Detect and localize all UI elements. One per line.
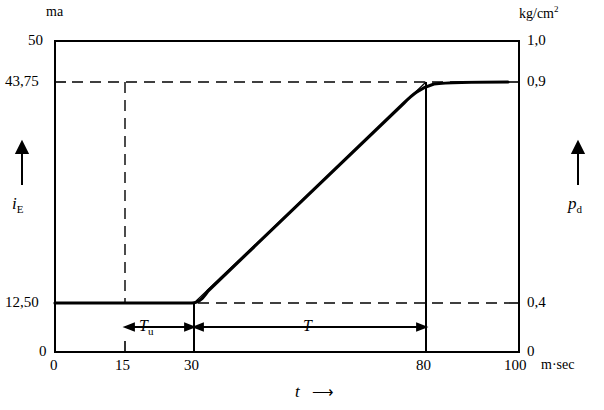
right-axis-arrow-icon [573,142,584,185]
x-axis-symbol: t [295,382,300,401]
y-tick-right-04: 0,4 [527,295,546,310]
axis-ticks-left [55,41,66,352]
y-axis-right-subscript: d [577,203,583,215]
annotation-tu-subscript: u [148,325,154,337]
y-axis-right-symbol: p [568,194,577,213]
left-axis-arrow-icon [17,142,28,185]
x-tick-30: 30 [184,358,199,373]
left-unit-label: ma [46,5,63,19]
y-tick-left-1250: 12,50 [5,295,39,310]
axis-ticks-right [508,41,519,352]
dashed-guides [72,82,508,303]
axis-ticks-bottom [55,341,519,352]
annotation-tu-arrow [125,324,194,331]
x-axis-name: t ⟶ [295,383,334,400]
annotation-tu-symbol: T [139,317,148,334]
y-tick-right-0: 0 [527,344,535,359]
y-tick-right-10: 1,0 [527,33,546,48]
y-tick-left-0: 0 [39,344,47,359]
right-unit-exponent: 2 [554,4,559,14]
y-tick-left-50: 50 [28,33,43,48]
x-tick-80: 80 [416,358,431,373]
y-axis-right-name: pd [568,195,582,215]
y-axis-left-subscript: E [17,203,24,215]
response-curve [55,82,508,303]
y-tick-left-4375: 43,75 [5,74,39,89]
right-unit-label: kg/cm2 [519,5,559,21]
y-axis-left-name: iE [12,195,23,215]
chart-root: ma kg/cm2 50 43,75 12,50 0 1,0 0,9 0,4 0… [0,0,604,410]
annotation-tu-label: Tu [139,318,153,337]
chart-svg [0,0,604,410]
y-tick-right-09: 0,9 [527,74,546,89]
x-axis-arrow-icon: ⟶ [304,384,334,400]
x-unit-label: m·sec [541,358,574,372]
vertical-markers [194,82,426,352]
x-tick-0: 0 [50,358,58,373]
x-tick-15: 15 [115,358,130,373]
annotation-t-label: T [303,318,312,334]
x-tick-100: 100 [504,358,527,373]
right-unit-text: kg/cm [519,6,554,21]
